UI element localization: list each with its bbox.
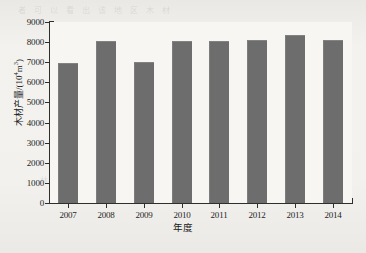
y-axis-title-exponent: 4 <box>12 72 19 75</box>
y-axis-title-unit-exponent: 3 <box>12 62 19 65</box>
y-axis-tick-label: 7000 <box>27 58 44 67</box>
y-axis-tick-label: 0 <box>40 199 44 208</box>
x-axis-tick-label: 2008 <box>86 210 126 220</box>
x-axis-tick <box>144 204 145 208</box>
bar-2011 <box>209 41 229 203</box>
x-axis-right-cap <box>352 198 353 204</box>
x-axis-tick <box>68 204 69 208</box>
x-axis-tick-label: 2011 <box>199 210 239 220</box>
bar-2007 <box>58 63 78 203</box>
x-axis-tick <box>257 204 258 208</box>
bleed-through-text-row1: 者 可 以 看 出 该 地 区 木 材 <box>18 6 173 15</box>
bar-2009 <box>134 62 154 203</box>
y-axis-tick <box>45 102 50 103</box>
bar-2013 <box>285 35 305 203</box>
y-axis-tick <box>45 123 50 124</box>
y-axis-tick-label: 9000 <box>27 18 44 27</box>
bar-2008 <box>96 41 116 203</box>
bar-2012 <box>247 40 267 203</box>
y-axis-tick <box>45 22 50 23</box>
y-axis-tick-label: 4000 <box>27 119 44 128</box>
y-axis-tick-label: 1000 <box>27 179 44 188</box>
x-axis-tick-label: 2012 <box>237 210 277 220</box>
x-axis-tick-label: 2014 <box>313 210 353 220</box>
y-axis-tick <box>45 163 50 164</box>
x-axis-tick-label: 2007 <box>48 210 88 220</box>
y-axis-tick-label: 5000 <box>27 98 44 107</box>
x-axis-tick-label: 2010 <box>162 210 202 220</box>
y-axis-line <box>49 21 50 204</box>
x-axis-tick <box>219 204 220 208</box>
bar-chart-figure: 者 可 以 看 出 该 地 区 木 材 量 的 变 化 特 征 是 林 木 蓄 … <box>0 0 366 253</box>
y-axis-tick-label: 2000 <box>27 159 44 168</box>
y-axis-tick-label: 6000 <box>27 78 44 87</box>
x-axis-tick-label: 2009 <box>124 210 164 220</box>
y-axis-tick <box>45 62 50 63</box>
x-axis-title: 年度 <box>0 223 366 234</box>
x-axis-tick <box>106 204 107 208</box>
bar-2010 <box>172 41 192 203</box>
y-axis-tick <box>45 42 50 43</box>
y-axis-tick <box>45 143 50 144</box>
y-axis-tick <box>45 183 50 184</box>
x-axis-tick-label: 2013 <box>275 210 315 220</box>
plot-area <box>49 22 352 203</box>
y-axis-tick-label: 8000 <box>27 38 44 47</box>
bar-2014 <box>323 40 343 203</box>
x-axis-tick <box>295 204 296 208</box>
y-axis-tick-label: 3000 <box>27 139 44 148</box>
x-axis-tick <box>333 204 334 208</box>
y-axis-title: 木材产量/(104m3) <box>11 33 24 153</box>
y-axis-tick <box>45 82 50 83</box>
x-axis-line <box>49 203 353 204</box>
y-axis-tick <box>45 203 50 204</box>
x-axis-tick <box>182 204 183 208</box>
